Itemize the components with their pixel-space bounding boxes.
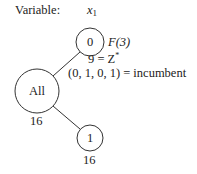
node-0-label: 0 bbox=[87, 35, 93, 49]
zstar-eq: = Z bbox=[94, 52, 115, 66]
variable-label: Variable: bbox=[15, 4, 60, 17]
node-all-bound: 16 bbox=[30, 115, 43, 128]
variable-subscript: 1 bbox=[93, 8, 98, 18]
node-0-status: F(3) bbox=[108, 36, 130, 49]
zstar-sup: * bbox=[115, 51, 119, 60]
node-all-label: All bbox=[29, 84, 46, 98]
node-0-incumbent: (0, 1, 0, 1) = incumbent bbox=[68, 67, 186, 80]
node-0-zstar: 9 = Z* bbox=[88, 52, 119, 66]
tree-diagram: All 0 1 bbox=[0, 0, 197, 174]
node-all: All bbox=[15, 69, 59, 113]
node-1: 1 bbox=[77, 125, 103, 151]
edge-all-to-1 bbox=[53, 106, 80, 129]
variable-symbol: x1 bbox=[87, 4, 97, 18]
node-1-label: 1 bbox=[87, 131, 93, 145]
node-1-bound: 16 bbox=[83, 154, 96, 167]
